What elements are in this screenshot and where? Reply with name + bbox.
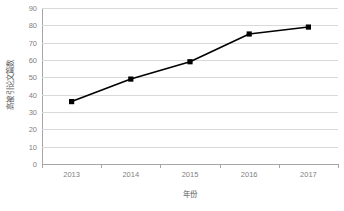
y-axis-title-text: 高被引论文篇数	[4, 59, 15, 109]
x-axis-title: 年份	[42, 188, 338, 199]
x-axis-tick-label: 2016	[241, 170, 258, 179]
series-line-high-cited-papers	[42, 8, 338, 164]
y-axis-tick-label: 30	[29, 108, 37, 117]
y-axis-tick-label: 40	[29, 90, 37, 99]
x-axis-tick-mark	[160, 164, 161, 168]
x-axis-tick-label: 2013	[63, 170, 80, 179]
y-axis-tick-label: 70	[29, 38, 37, 47]
data-point-marker	[187, 59, 192, 64]
x-axis-tick-mark	[220, 164, 221, 168]
series-polyline	[72, 27, 309, 102]
y-axis-tick-label: 20	[29, 125, 37, 134]
chart-container: 高被引论文篇数 0102030405060708090 201320142015…	[0, 0, 344, 211]
x-axis-tick-label: 2014	[122, 170, 139, 179]
x-axis-tick-labels: 20132014201520162017	[42, 170, 338, 184]
y-axis-tick-label: 10	[29, 142, 37, 151]
x-axis-line	[42, 164, 338, 165]
data-point-marker	[247, 31, 252, 36]
y-axis-tick-label: 80	[29, 21, 37, 30]
y-axis-title: 高被引论文篇数	[0, 0, 18, 168]
x-axis-tick-label: 2015	[182, 170, 199, 179]
y-axis-tick-label: 90	[29, 4, 37, 13]
x-axis-tick-mark	[279, 164, 280, 168]
y-axis-tick-label: 60	[29, 56, 37, 65]
data-point-marker	[128, 76, 133, 81]
data-point-marker	[69, 99, 74, 104]
x-axis-tick-mark	[338, 164, 339, 168]
y-axis-tick-label: 0	[33, 160, 37, 169]
plot-area	[42, 8, 338, 164]
y-axis-tick-label: 50	[29, 73, 37, 82]
x-axis-tick-label: 2017	[300, 170, 317, 179]
x-axis-tick-mark	[42, 164, 43, 168]
y-axis-tick-labels: 0102030405060708090	[18, 8, 40, 164]
x-axis-tick-mark	[101, 164, 102, 168]
data-point-marker	[306, 24, 311, 29]
